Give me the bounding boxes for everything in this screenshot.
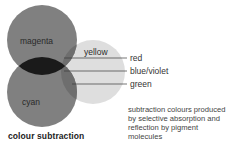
blue-violet-label: blue/violet [130,66,169,76]
green-label: green [130,79,152,89]
yellow-label: yellow [84,47,108,57]
diagram-title: colour subtraction [8,131,84,141]
caption-line: by selective absorption and [128,114,230,123]
magenta-label: magenta [20,36,53,46]
caption-line: molecules [128,132,230,141]
red-label: red [130,53,143,63]
caption-line: reflection by pigment [128,123,230,132]
caption-line: subtraction colours produced [128,105,230,114]
cyan-label: cyan [22,97,40,107]
diagram-caption: subtraction colours produced by selectiv… [128,105,230,141]
